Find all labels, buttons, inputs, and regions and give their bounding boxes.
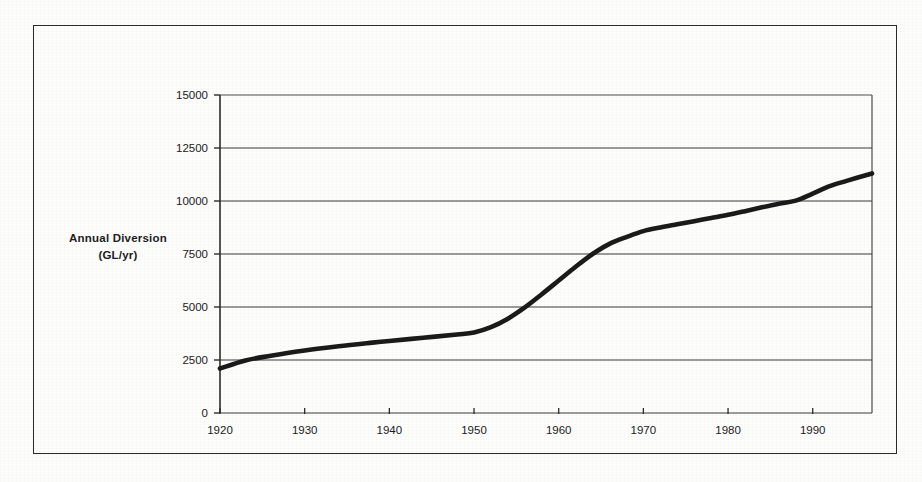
x-tick-label: 1960 — [546, 424, 572, 436]
x-tick-label: 1940 — [377, 424, 403, 436]
x-tick-label: 1920 — [207, 424, 233, 436]
y-tick-label: 7500 — [182, 248, 208, 260]
y-tick-label: 2500 — [182, 354, 208, 366]
data-series-line — [220, 173, 872, 368]
y-tick-label: 5000 — [182, 301, 208, 313]
y-tick-label: 10000 — [176, 195, 208, 207]
y-tick-label: 0 — [202, 407, 208, 419]
y-tick-group: 0250050007500100001250015000 — [176, 89, 220, 419]
chart-page: Annual Diversion (GL/yr) 025005000750010… — [0, 0, 922, 482]
gridlines-group — [220, 95, 872, 413]
x-tick-label: 1950 — [461, 424, 487, 436]
y-tick-label: 15000 — [176, 89, 208, 101]
x-tick-label: 1970 — [631, 424, 657, 436]
x-tick-label: 1980 — [715, 424, 741, 436]
x-tick-label: 1990 — [800, 424, 826, 436]
y-tick-label: 12500 — [176, 142, 208, 154]
x-tick-label: 1930 — [292, 424, 318, 436]
x-tick-group: 19201930194019501960197019801990 — [207, 408, 825, 436]
line-chart-plot: 0250050007500100001250015000 19201930194… — [0, 0, 922, 482]
